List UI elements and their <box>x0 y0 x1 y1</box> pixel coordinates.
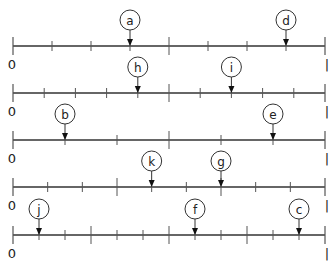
marker-i: i <box>221 57 241 93</box>
number-line: 0|ad <box>8 10 329 72</box>
one-label: | <box>325 151 329 166</box>
zero-label: 0 <box>8 57 16 72</box>
arrow-head-icon <box>149 180 155 187</box>
arrow-head-icon <box>127 39 133 46</box>
marker-a: a <box>120 10 140 46</box>
marker-label: b <box>61 108 69 122</box>
one-label: | <box>325 57 329 72</box>
marker-label: j <box>36 203 40 217</box>
marker-b: b <box>55 104 75 140</box>
number-line-diagram: 0|ad0|hi0|be0|kg0|jfc <box>0 0 336 265</box>
one-label: | <box>325 104 329 119</box>
number-line: 0|jfc <box>8 199 329 261</box>
marker-label: g <box>217 155 225 169</box>
marker-e: e <box>263 104 283 140</box>
zero-label: 0 <box>8 198 16 213</box>
arrow-head-icon <box>192 228 198 235</box>
marker-j: j <box>29 199 49 235</box>
number-line: 0|kg <box>8 151 329 213</box>
arrow-head-icon <box>228 86 234 93</box>
marker-f: f <box>185 199 205 235</box>
zero-label: 0 <box>8 246 16 261</box>
one-label: | <box>325 246 329 261</box>
arrow-head-icon <box>296 228 302 235</box>
marker-k: k <box>142 151 162 187</box>
number-line: 0|be <box>8 104 329 166</box>
zero-label: 0 <box>8 104 16 119</box>
arrow-head-icon <box>62 133 68 140</box>
marker-label: i <box>230 61 233 75</box>
arrow-head-icon <box>283 39 289 46</box>
number-lines-canvas: 0|ad0|hi0|be0|kg0|jfc <box>0 0 336 265</box>
marker-label: a <box>126 14 133 28</box>
marker-label: c <box>296 203 303 217</box>
arrow-head-icon <box>135 86 141 93</box>
arrow-head-icon <box>36 228 42 235</box>
marker-label: d <box>282 14 290 28</box>
marker-label: h <box>134 61 142 75</box>
marker-g: g <box>211 151 231 187</box>
marker-h: h <box>128 57 148 93</box>
marker-label: k <box>148 155 155 169</box>
marker-c: c <box>289 199 309 235</box>
marker-label: e <box>269 108 276 122</box>
arrow-head-icon <box>218 180 224 187</box>
marker-d: d <box>276 10 296 46</box>
zero-label: 0 <box>8 151 16 166</box>
one-label: | <box>325 198 329 213</box>
arrow-head-icon <box>270 133 276 140</box>
